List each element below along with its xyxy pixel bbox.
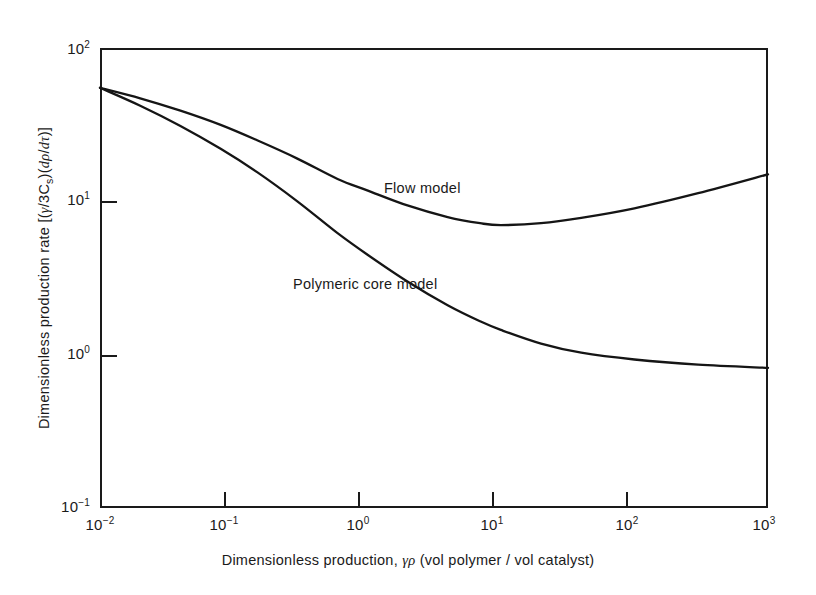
y-axis-title-text: Dimensionless production rate	[36, 227, 52, 429]
x-tick-1e0	[358, 492, 360, 506]
x-tick-label-exponent: 2	[633, 515, 639, 526]
y-tick-label-exponent: 1	[84, 190, 90, 201]
x-tick-1e-1	[224, 492, 226, 506]
y-axis-title-slash2: /	[36, 149, 52, 153]
x-axis-title-symbol: γρ	[402, 552, 415, 568]
y-tick-label-1e2: 102	[67, 40, 90, 57]
x-tick-label-1e3: 103	[753, 516, 776, 533]
y-tick-label-exponent: −1	[78, 497, 90, 508]
figure-container: 10−2 10−1 100 101 102 103 102 101 100 10…	[0, 0, 816, 595]
x-tick-label-exponent: 3	[770, 515, 776, 526]
y-tick-1e1	[102, 201, 117, 203]
y-tick-label-mantissa: 10	[61, 498, 78, 515]
x-tick-1e2	[626, 492, 628, 506]
y-axis-title-gamma: γ	[36, 207, 52, 213]
annotation-flow-model: Flow model	[384, 180, 461, 196]
y-axis-title-bracket-open: [(	[36, 213, 52, 222]
x-axis-title-units: (vol polymer / vol catalyst)	[420, 552, 595, 568]
x-tick-label-exponent: −2	[103, 515, 115, 526]
x-tick-label-mantissa: 10	[481, 516, 498, 533]
x-tick-label-exponent: 0	[364, 515, 370, 526]
x-tick-label-mantissa: 10	[86, 516, 103, 533]
x-tick-label-mantissa: 10	[347, 516, 364, 533]
y-axis-title: Dimensionless production rate [(γ/3Cs)(d…	[36, 48, 58, 508]
y-tick-label-mantissa: 10	[67, 40, 84, 57]
annotation-polymeric-core-model: Polymeric core model	[293, 276, 437, 292]
y-axis-title-cs: C	[36, 184, 52, 195]
x-tick-label-1e2: 102	[616, 516, 639, 533]
y-axis-title-drho: dρ	[36, 153, 52, 168]
x-tick-label-exponent: −1	[227, 515, 239, 526]
y-axis-title-mid: )(	[36, 168, 52, 178]
y-tick-label-1e0: 100	[67, 345, 90, 362]
x-tick-label-mantissa: 10	[210, 516, 227, 533]
y-tick-label-mantissa: 10	[67, 191, 84, 208]
y-axis-title-slash: /3	[36, 195, 52, 208]
x-tick-label-mantissa: 10	[753, 516, 770, 533]
y-tick-label-exponent: 2	[84, 39, 90, 50]
x-tick-label-1e1: 101	[481, 516, 504, 533]
y-tick-label-mantissa: 10	[67, 345, 84, 362]
y-tick-label-1e-1: 10−1	[61, 498, 90, 515]
x-tick-label-exponent: 1	[498, 515, 504, 526]
x-tick-label-1e0: 100	[347, 516, 370, 533]
y-tick-1e0	[102, 355, 117, 357]
x-tick-label-1e-2: 10−2	[86, 516, 115, 533]
x-axis-title-text: Dimensionless production	[222, 552, 394, 568]
x-axis-title-comma: ,	[394, 552, 398, 568]
y-axis-title-bracket-close: )]	[36, 127, 52, 136]
x-axis-title: Dimensionless production, γρ (vol polyme…	[0, 552, 816, 569]
x-tick-label-mantissa: 10	[616, 516, 633, 533]
y-axis-title-cs-subscript: s	[43, 178, 55, 184]
y-axis-title-dtau: dτ	[36, 136, 52, 149]
y-tick-label-exponent: 0	[84, 344, 90, 355]
x-tick-1e1	[492, 492, 494, 506]
y-tick-label-1e1: 101	[67, 191, 90, 208]
x-tick-label-1e-1: 10−1	[210, 516, 239, 533]
